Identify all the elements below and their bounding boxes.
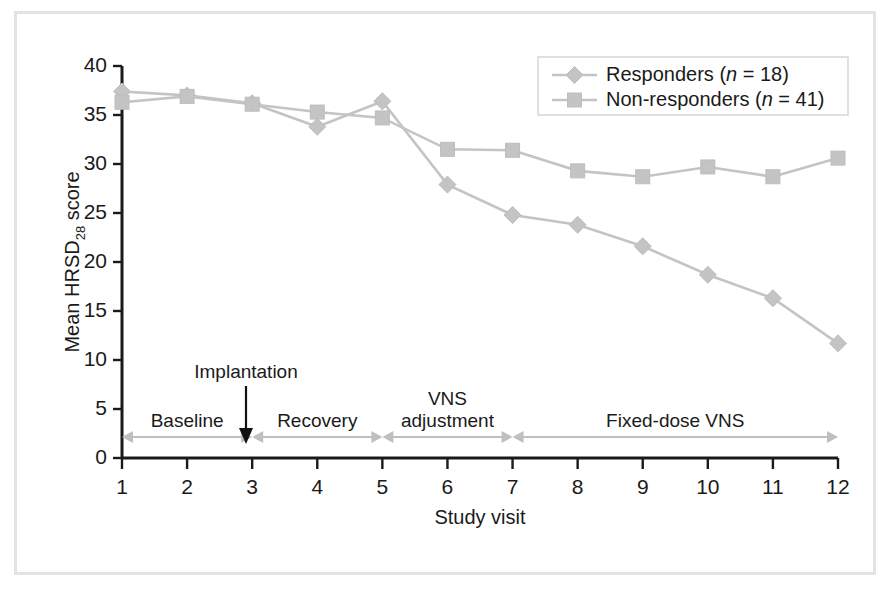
square-marker-icon <box>568 93 582 107</box>
data-point-square <box>375 111 389 125</box>
phase-label-line2: adjustment <box>401 410 495 431</box>
data-point-square <box>440 142 454 156</box>
x-tick-label: 7 <box>507 475 519 498</box>
y-axis-title-subscript: 28 <box>73 226 88 240</box>
y-tick-label: 15 <box>84 298 107 321</box>
data-point-square <box>506 143 520 157</box>
phase-baseline: Baseline <box>122 410 252 443</box>
x-tick-label: 5 <box>377 475 389 498</box>
implantation-arrow-head <box>239 428 253 444</box>
implantation-annotation: Implantation <box>194 361 298 444</box>
chart-figure: 0510152025303540 Mean HRSD28 score 12345… <box>0 0 894 593</box>
data-point-square <box>636 170 650 184</box>
phase-vns-adjustment: VNSadjustment <box>382 388 512 443</box>
legend-label-responders: Responders (n = 18) <box>606 63 789 85</box>
data-point-diamond <box>699 266 716 283</box>
y-axis: 0510152025303540 Mean HRSD28 score <box>61 53 122 468</box>
x-tick-label: 10 <box>696 475 719 498</box>
data-point-square <box>571 164 585 178</box>
data-point-square <box>831 151 845 165</box>
series-line <box>122 91 838 343</box>
data-point-square <box>245 97 259 111</box>
y-axis-title-main: Mean HRSD <box>61 240 83 352</box>
data-point-diamond <box>634 238 651 255</box>
phase-arrow-left <box>122 431 133 443</box>
y-tick-label: 25 <box>84 200 107 223</box>
data-point-diamond <box>830 335 847 352</box>
data-point-square <box>180 89 194 103</box>
x-axis-tick-labels: 123456789101112 <box>116 475 850 498</box>
x-axis-title: Study visit <box>434 506 526 528</box>
phase-label: Recovery <box>277 410 358 431</box>
series-responders <box>114 83 847 352</box>
phase-label: Baseline <box>151 410 224 431</box>
chart-svg: 0510152025303540 Mean HRSD28 score 12345… <box>0 0 894 593</box>
legend-non-responders-tail: = 41) <box>773 88 825 110</box>
phase-recovery: Recovery <box>252 410 382 443</box>
y-axis-title-tail: score <box>61 171 83 225</box>
phase-label: Fixed-dose VNS <box>606 410 744 431</box>
legend: Responders (n = 18) Non-responders (n = … <box>538 57 848 115</box>
legend-responders-italic: n <box>726 63 737 85</box>
legend-non-responders-main: Non-responders ( <box>606 88 762 110</box>
y-tick-label: 5 <box>95 396 107 419</box>
x-axis: 123456789101112 Study visit <box>116 458 850 528</box>
data-point-diamond <box>764 290 781 307</box>
data-series-layer <box>114 83 847 352</box>
data-point-square <box>115 95 129 109</box>
data-point-square <box>701 160 715 174</box>
y-tick-label: 30 <box>84 151 107 174</box>
x-tick-label: 6 <box>442 475 454 498</box>
y-tick-label: 10 <box>84 347 107 370</box>
phase-arrow-left <box>252 431 263 443</box>
legend-responders-tail: = 18) <box>737 63 789 85</box>
phase-fixed-dose-vns: Fixed-dose VNS <box>513 410 838 443</box>
x-tick-label: 12 <box>826 475 849 498</box>
x-tick-label: 8 <box>572 475 584 498</box>
phase-label-line1: VNS <box>428 388 467 409</box>
x-axis-ticks <box>122 458 838 469</box>
legend-label-non-responders: Non-responders (n = 41) <box>606 88 824 110</box>
data-point-diamond <box>309 118 326 135</box>
phase-arrow-left <box>513 431 524 443</box>
data-point-diamond <box>569 216 586 233</box>
x-tick-label: 2 <box>181 475 193 498</box>
y-tick-label: 20 <box>84 249 107 272</box>
implantation-label: Implantation <box>194 361 298 382</box>
y-tick-label: 0 <box>95 445 107 468</box>
phase-arrow-left <box>382 431 393 443</box>
legend-responders-main: Responders ( <box>606 63 726 85</box>
x-tick-label: 4 <box>311 475 323 498</box>
y-axis-tick-labels: 0510152025303540 <box>84 53 107 468</box>
y-tick-label: 40 <box>84 53 107 76</box>
data-point-square <box>310 105 324 119</box>
x-tick-label: 9 <box>637 475 649 498</box>
x-tick-label: 11 <box>762 475 784 498</box>
y-tick-label: 35 <box>84 102 107 125</box>
phase-arrow-right <box>827 431 838 443</box>
data-point-square <box>766 170 780 184</box>
phase-annotation-layer: BaselineRecoveryVNSadjustmentFixed-dose … <box>122 388 838 443</box>
phase-arrow-right <box>371 431 382 443</box>
phase-arrow-right <box>502 431 513 443</box>
x-tick-label: 1 <box>116 475 128 498</box>
legend-non-responders-italic: n <box>762 88 773 110</box>
data-point-diamond <box>504 206 521 223</box>
x-tick-label: 3 <box>246 475 258 498</box>
